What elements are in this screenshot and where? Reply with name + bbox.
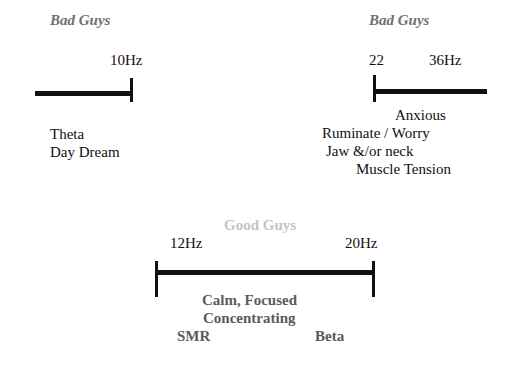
center-band-smr-label: SMR xyxy=(177,327,210,346)
center-band-desc-concentrating: Concentrating xyxy=(203,309,296,328)
center-band-start-label: 12Hz xyxy=(170,234,203,252)
center-band-desc-calm: Calm, Focused xyxy=(202,291,297,310)
center-band-end-label: 20Hz xyxy=(345,234,378,252)
center-band-beta-label: Beta xyxy=(315,327,344,346)
right-band-desc-anxious: Anxious xyxy=(395,106,446,124)
left-band-desc-daydream: Day Dream xyxy=(50,143,120,161)
right-band-desc-muscle: Muscle Tension xyxy=(356,160,451,178)
right-band-end-label: 36Hz xyxy=(429,51,462,69)
right-band-title: Bad Guys xyxy=(369,12,429,29)
right-band-start-label: 22 xyxy=(369,51,384,69)
left-band-freq-label: 10Hz xyxy=(110,51,143,69)
center-band-right-tick xyxy=(372,261,375,297)
right-band-line xyxy=(374,89,487,94)
right-band-desc-jaw: Jaw &/or neck xyxy=(326,142,413,160)
left-band-desc-theta: Theta xyxy=(50,125,84,143)
center-band-line xyxy=(156,270,374,275)
left-band-title: Bad Guys xyxy=(50,12,110,29)
center-band-left-tick xyxy=(155,261,158,297)
right-band-desc-ruminate: Ruminate / Worry xyxy=(322,124,430,142)
left-band-tick xyxy=(130,78,133,102)
left-band-line xyxy=(35,91,132,96)
center-band-title: Good Guys xyxy=(224,217,296,234)
